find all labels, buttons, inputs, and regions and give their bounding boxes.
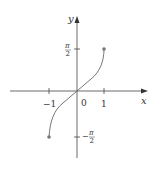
arcsin-chart: y x 0 −1 1 π 2 − π 2 — [0, 0, 158, 169]
endpoint-dot-upper — [102, 47, 106, 51]
y-axis-arrow-icon — [75, 16, 80, 23]
y-tick-label-pi-num: π — [64, 42, 70, 50]
x-tick-label-neg-one: −1 — [43, 99, 56, 109]
y-axis-label: y — [67, 13, 74, 24]
arcsin-curve — [49, 49, 104, 137]
origin-label: 0 — [81, 98, 87, 108]
y-tick-label-pi-den: 2 — [66, 50, 70, 58]
y-tick-label-neg-sign: − — [82, 132, 89, 141]
y-tick-label-neg-pi-den: 2 — [90, 137, 94, 145]
y-tick-label-neg-pi-num: π — [88, 129, 94, 137]
x-axis-arrow-icon — [141, 89, 148, 94]
endpoint-dot-lower — [47, 135, 51, 139]
x-axis-label: x — [141, 95, 147, 106]
x-tick-label-one: 1 — [101, 99, 107, 109]
